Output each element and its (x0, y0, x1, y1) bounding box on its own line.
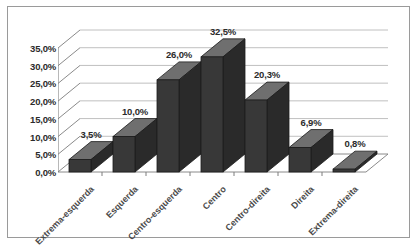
bar-value-label: 20,3% (254, 69, 280, 80)
x-axis-category-label: Centro-direita (223, 184, 272, 233)
x-axis-category-label: Centro (200, 184, 228, 212)
y-axis-tick-label: 15,0% (12, 113, 56, 124)
y-axis-tick-label: 30,0% (12, 60, 56, 71)
bar-value-label: 10,0% (122, 106, 148, 117)
chart-figure: 0,0%5,0%10,0%15,0%20,0%25,0%30,0%35,0% 3… (0, 0, 417, 245)
x-axis: Extrema-esquerdaEsquerdaCentro-esquerdaC… (58, 180, 398, 242)
y-axis-tick-label: 35,0% (12, 43, 56, 54)
y-axis-tick-label: 25,0% (12, 78, 56, 89)
x-axis-category-label: Esquerda (104, 184, 140, 220)
bar-value-label: 6,9% (301, 117, 322, 128)
y-axis-tick-label: 20,0% (12, 96, 56, 107)
bar-value-label: 26,0% (166, 49, 192, 60)
data-label-layer: 3,5%10,0%26,0%32,5%20,3%6,9%0,8% (58, 26, 388, 178)
x-axis-category-label: Direita (289, 184, 316, 211)
bar-value-label: 32,5% (210, 26, 236, 37)
bar-value-label: 0,8% (345, 138, 366, 149)
bar-value-label: 3,5% (81, 129, 102, 140)
y-axis-tick-label: 0,0% (12, 167, 56, 178)
y-axis: 0,0%5,0%10,0%15,0%20,0%25,0%30,0%35,0% (10, 26, 56, 178)
y-axis-tick-label: 5,0% (12, 149, 56, 160)
y-axis-tick-label: 10,0% (12, 131, 56, 142)
